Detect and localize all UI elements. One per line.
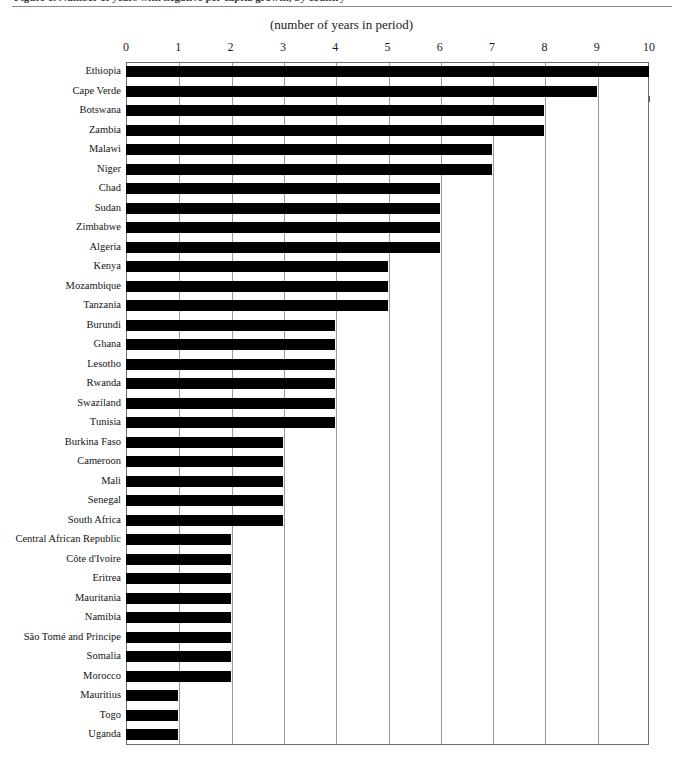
bar <box>126 183 440 194</box>
category-label: Rwanda <box>87 377 121 388</box>
category-label: Ethiopia <box>85 65 121 76</box>
x-tick-label-8: 8 <box>532 40 556 55</box>
bar <box>126 632 231 643</box>
chart-row: Senegal <box>0 491 683 510</box>
bar <box>126 690 178 701</box>
bar <box>126 320 335 331</box>
chart-row: Kenya <box>0 257 683 276</box>
chart-row: Burundi <box>0 316 683 335</box>
chart-row: Mauritius <box>0 686 683 705</box>
category-label: Lesotho <box>87 358 121 369</box>
category-label: Eritrea <box>92 572 121 583</box>
chart-row: Ghana <box>0 335 683 354</box>
chart-row: Côte d'Ivoire <box>0 550 683 569</box>
bar <box>126 495 283 506</box>
bar <box>126 66 649 77</box>
chart-row: Malawi <box>0 140 683 159</box>
category-label: Mauritania <box>75 592 121 603</box>
x-tick-label-0: 0 <box>114 40 138 55</box>
chart-row: Sudan <box>0 199 683 218</box>
bar <box>126 105 544 116</box>
chart-row: Botswana <box>0 101 683 120</box>
bar <box>126 534 231 545</box>
bar <box>126 573 231 584</box>
bar <box>126 651 231 662</box>
x-tick-label-9: 9 <box>585 40 609 55</box>
x-tick-label-2: 2 <box>219 40 243 55</box>
bar <box>126 242 440 253</box>
chart-row: Mozambique <box>0 277 683 296</box>
bar <box>126 612 231 623</box>
category-label: Chad <box>99 182 121 193</box>
x-tick-label-3: 3 <box>271 40 295 55</box>
chart-row: Cameroon <box>0 452 683 471</box>
bar <box>126 378 335 389</box>
category-label: Zimbabwe <box>76 221 121 232</box>
chart-row: Togo <box>0 706 683 725</box>
header-divider-rule <box>12 6 672 7</box>
category-label: Botswana <box>80 104 121 115</box>
chart-row: São Tomé and Principe <box>0 628 683 647</box>
category-label: São Tomé and Principe <box>24 631 121 642</box>
chart-row: Morocco <box>0 667 683 686</box>
category-label: Senegal <box>88 494 121 505</box>
category-label: Zambia <box>89 124 121 135</box>
chart-row: Eritrea <box>0 569 683 588</box>
category-label: Sudan <box>95 202 121 213</box>
category-label: Somalia <box>87 650 121 661</box>
bar <box>126 359 335 370</box>
chart-row: Uganda <box>0 725 683 744</box>
chart-row: Burkina Faso <box>0 433 683 452</box>
chart-row: Tunisia <box>0 413 683 432</box>
chart-row: Central African Republic <box>0 530 683 549</box>
chart-row: Lesotho <box>0 355 683 374</box>
category-label: Tanzania <box>83 299 121 310</box>
bar <box>126 144 492 155</box>
chart-row: Algeria <box>0 238 683 257</box>
x-tick-label-6: 6 <box>428 40 452 55</box>
x-axis-tick-labels: 012345678910 <box>0 40 683 54</box>
bar <box>126 729 178 740</box>
chart-row: Niger <box>0 160 683 179</box>
chart-row: Somalia <box>0 647 683 666</box>
chart-row: Chad <box>0 179 683 198</box>
bar <box>126 281 388 292</box>
category-label: Mauritius <box>80 689 121 700</box>
category-label: Togo <box>100 709 121 720</box>
chart-row: Ethiopia <box>0 62 683 81</box>
category-label: Swaziland <box>77 397 121 408</box>
category-label: Malawi <box>89 143 121 154</box>
category-label: Central African Republic <box>15 533 121 544</box>
bar <box>126 710 178 721</box>
figure-caption: Figure 1. Number of years with negative … <box>14 0 345 3</box>
chart-row: Mauritania <box>0 589 683 608</box>
category-label: Ghana <box>94 338 121 349</box>
category-label: Mali <box>101 475 121 486</box>
chart-row: Namibia <box>0 608 683 627</box>
x-tick-label-4: 4 <box>323 40 347 55</box>
chart-row: South Africa <box>0 511 683 530</box>
bar <box>126 164 492 175</box>
x-tick-label-10: 10 <box>637 40 661 55</box>
chart-row: Zambia <box>0 121 683 140</box>
bar <box>126 203 440 214</box>
bar <box>126 125 544 136</box>
bar <box>126 593 231 604</box>
category-label: Morocco <box>83 670 121 681</box>
x-tick-label-5: 5 <box>376 40 400 55</box>
x-tick-label-1: 1 <box>166 40 190 55</box>
x-axis-title: (number of years in period) <box>0 17 683 33</box>
x-tick-label-7: 7 <box>480 40 504 55</box>
bar <box>126 476 283 487</box>
chart-row: Swaziland <box>0 394 683 413</box>
bar <box>126 456 283 467</box>
bar <box>126 261 388 272</box>
category-label: Burundi <box>87 319 121 330</box>
category-label: Namibia <box>85 611 121 622</box>
bar <box>126 86 597 97</box>
chart-row: Rwanda <box>0 374 683 393</box>
category-label: Algeria <box>90 241 122 252</box>
chart-row: Zimbabwe <box>0 218 683 237</box>
category-label: Uganda <box>88 728 121 739</box>
chart-row: Tanzania <box>0 296 683 315</box>
